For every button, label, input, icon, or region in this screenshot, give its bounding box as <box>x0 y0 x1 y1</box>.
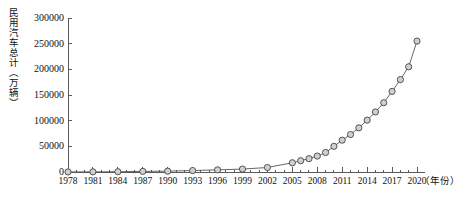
x-axis-unit-label: （年份） <box>420 176 460 186</box>
x-axis-tick-label: 1978 <box>59 176 78 186</box>
data-point-markers <box>65 38 420 175</box>
x-axis-tick-label: 2011 <box>333 176 352 186</box>
axes <box>68 18 425 172</box>
x-axis-tick-label: 1990 <box>158 176 177 186</box>
x-axis-tick-label: 2008 <box>308 176 327 186</box>
x-axis-tick-label: 2002 <box>258 176 277 186</box>
x-axis-tick-label: 1996 <box>208 176 227 186</box>
x-axis-tick-label: 1981 <box>83 176 102 186</box>
chart-container: 民用汽车总计（万辆） 05000010000015000020000025000… <box>0 0 475 202</box>
x-axis-tick-label: 1987 <box>133 176 152 186</box>
x-axis-tick-label: 1984 <box>108 176 127 186</box>
data-series-line <box>68 41 417 172</box>
plot-area <box>0 0 475 202</box>
x-axis-tick-label: 1993 <box>183 176 202 186</box>
x-axis-tick-label: 2014 <box>358 176 377 186</box>
x-axis-tick-label: 2017 <box>383 176 402 186</box>
x-axis-tick-label: 1999 <box>233 176 252 186</box>
x-axis-tick-label: 2005 <box>283 176 302 186</box>
